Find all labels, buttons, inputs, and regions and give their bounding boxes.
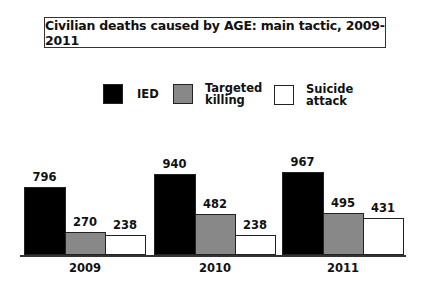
legend-label-ied: IED bbox=[137, 88, 159, 100]
data-label: 270 bbox=[64, 215, 106, 229]
data-label: 238 bbox=[234, 218, 276, 232]
x-tick-label: 2011 bbox=[303, 261, 383, 275]
bar-targeted-killing-2009 bbox=[65, 232, 106, 255]
data-label: 940 bbox=[154, 157, 196, 171]
x-tick-label: 2010 bbox=[175, 261, 255, 275]
bar-targeted-killing-2010 bbox=[195, 214, 236, 255]
data-label: 431 bbox=[362, 201, 404, 215]
data-label: 967 bbox=[282, 155, 324, 169]
bar-targeted-killing-2011 bbox=[323, 213, 364, 255]
legend-swatch-ied bbox=[103, 84, 123, 104]
chart-title: Civilian deaths caused by AGE: main tact… bbox=[44, 17, 386, 48]
x-tick-label: 2009 bbox=[45, 261, 125, 275]
legend-label-suicide-attack: Suicide attack bbox=[306, 83, 353, 107]
data-label: 238 bbox=[104, 218, 146, 232]
legend-swatch-suicide-attack bbox=[274, 85, 294, 105]
data-label: 495 bbox=[322, 196, 364, 210]
bar-suicide-attack-2010 bbox=[235, 235, 276, 255]
bar-ied-2010 bbox=[154, 174, 196, 255]
bar-suicide-attack-2011 bbox=[363, 218, 404, 255]
bar-suicide-attack-2009 bbox=[105, 235, 146, 255]
data-label: 482 bbox=[194, 197, 236, 211]
bar-ied-2011 bbox=[282, 172, 324, 255]
x-axis-line bbox=[20, 255, 406, 257]
bar-ied-2009 bbox=[24, 187, 66, 255]
legend-label-targeted-killing: Targeted killing bbox=[205, 82, 262, 106]
legend-swatch-targeted-killing bbox=[173, 84, 193, 104]
data-label: 796 bbox=[24, 170, 66, 184]
